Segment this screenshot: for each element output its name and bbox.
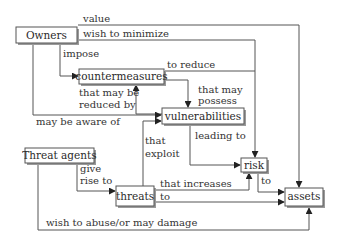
label-may-be-aware-of: may be aware of bbox=[36, 116, 121, 127]
label-impose: impose bbox=[63, 48, 99, 59]
node-owners: Owners bbox=[16, 27, 79, 45]
node-threats-label: threats bbox=[116, 190, 154, 202]
node-risk: risk bbox=[241, 158, 269, 174]
label-that-may-be-reduced-by-2: reduced by bbox=[79, 99, 136, 110]
label-that-increases: that increases bbox=[160, 178, 232, 189]
edge-that-may-be-reduced-by bbox=[136, 85, 162, 114]
security-concepts-diagram: value wish to minimize impose to reduce … bbox=[0, 0, 342, 243]
node-threats: threats bbox=[116, 186, 156, 208]
label-that-exploit-1: that bbox=[145, 135, 165, 146]
node-threat-agents-label: Threat agents bbox=[22, 149, 96, 161]
node-vulnerabilities: vulnerabilities bbox=[162, 108, 246, 126]
label-to-reduce: to reduce bbox=[167, 59, 215, 70]
label-that-may-possess-2: possess bbox=[198, 95, 237, 106]
node-countermeasures: countermeasures bbox=[75, 69, 167, 86]
node-assets-label: assets bbox=[288, 190, 321, 202]
label-risk-to: to bbox=[261, 175, 271, 186]
label-value: value bbox=[82, 13, 110, 24]
label-wish-to-abuse: wish to abuse/or may damage bbox=[46, 217, 197, 228]
node-risk-label: risk bbox=[244, 159, 265, 171]
node-owners-label: Owners bbox=[26, 29, 67, 41]
node-countermeasures-label: countermeasures bbox=[75, 70, 167, 82]
node-vulnerabilities-label: vulnerabilities bbox=[164, 110, 241, 122]
node-assets: assets bbox=[285, 188, 325, 208]
node-threat-agents: Threat agents bbox=[22, 148, 96, 165]
label-give-rise-to-2: rise to bbox=[80, 175, 112, 186]
label-that-may-possess-1: that may bbox=[198, 84, 243, 95]
label-leading-to: leading to bbox=[195, 130, 246, 141]
label-threats-to: to bbox=[160, 191, 170, 202]
label-that-exploit-2: exploit bbox=[145, 148, 179, 159]
label-wish-to-minimize: wish to minimize bbox=[83, 28, 169, 39]
label-that-may-be-reduced-by-1: that may be bbox=[79, 87, 139, 98]
edge-that-may-possess bbox=[165, 80, 188, 107]
